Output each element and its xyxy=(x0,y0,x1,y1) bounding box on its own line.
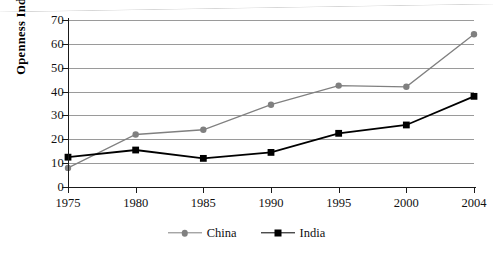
x-axis-tick xyxy=(136,187,137,193)
x-axis-tick-label: 1990 xyxy=(259,196,284,210)
data-point-china-2000 xyxy=(403,84,409,90)
x-axis-tick xyxy=(203,187,204,193)
x-axis-tick-label: 2004 xyxy=(462,196,487,210)
data-point-china-2004 xyxy=(471,31,477,37)
data-point-india-1990 xyxy=(268,149,275,156)
x-axis-tick-label: 1995 xyxy=(326,196,351,210)
data-point-china-1990 xyxy=(268,101,274,107)
legend-item-india[interactable]: India xyxy=(261,226,326,240)
x-axis-tick-label: 1975 xyxy=(56,196,81,210)
data-point-india-1985 xyxy=(200,155,207,162)
data-point-china-1980 xyxy=(132,131,138,137)
series-line-china xyxy=(68,34,474,168)
x-axis-ticks xyxy=(68,187,474,194)
plot-area xyxy=(68,20,474,187)
legend-item-china[interactable]: China xyxy=(168,226,237,240)
x-axis-tick xyxy=(406,187,407,193)
data-point-india-2004 xyxy=(471,93,478,100)
legend-label: China xyxy=(207,226,237,240)
data-point-india-1980 xyxy=(132,147,139,154)
series-lines xyxy=(68,20,474,187)
x-axis-tick-labels: 1975198019851990199520002004 xyxy=(0,196,493,214)
chart-figure: Openness Index 010203040506070 197519801… xyxy=(0,0,493,256)
data-point-china-1985 xyxy=(200,127,206,133)
scan-artifact-line xyxy=(0,4,493,12)
data-point-india-2000 xyxy=(403,122,410,129)
data-point-china-1995 xyxy=(335,82,341,88)
x-axis-tick xyxy=(271,187,272,193)
x-axis-tick-label: 1980 xyxy=(123,196,148,210)
y-axis-title-container: Openness Index xyxy=(20,40,36,160)
data-point-india-1995 xyxy=(335,130,342,137)
x-axis-tick-label: 1985 xyxy=(191,196,216,210)
y-axis-title: Openness Index xyxy=(14,0,29,90)
x-axis-tick xyxy=(339,187,340,193)
x-axis-tick-label: 2000 xyxy=(394,196,419,210)
y-axis-line xyxy=(68,18,69,189)
x-axis-tick xyxy=(474,187,475,193)
y-axis-tick-labels: 010203040506070 xyxy=(40,20,64,187)
x-axis-tick xyxy=(68,187,69,193)
chart-legend: ChinaIndia xyxy=(0,222,493,244)
legend-label: India xyxy=(300,226,326,240)
